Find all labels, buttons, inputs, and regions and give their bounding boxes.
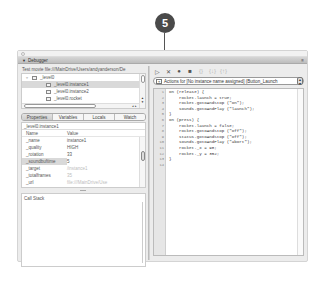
property-value[interactable]: 35 xyxy=(67,172,145,179)
display-list-tree: ▿_level0_level0.instance1_level0.instanc… xyxy=(21,73,146,109)
tree-item-label: _level0.rocket xyxy=(54,96,82,101)
property-name: _rotation xyxy=(22,151,67,158)
tree-item-label: _level0 xyxy=(40,75,54,80)
tree-item[interactable]: _level0.rocket xyxy=(22,95,145,102)
tab-properties[interactable]: Properties xyxy=(22,114,53,120)
script-code-view[interactable]: 1on (release) {2 rocket.launch = true;3 … xyxy=(153,88,304,256)
property-value[interactable]: /instance1 xyxy=(67,165,145,172)
toggle-breakpoint-icon[interactable]: ● xyxy=(176,68,182,74)
call-stack-panel: Call Stack xyxy=(21,193,146,267)
chevron-updown-icon[interactable]: ▲▼ xyxy=(297,77,303,85)
continue-icon[interactable]: ▷ xyxy=(154,68,160,75)
property-name: _url xyxy=(22,179,67,186)
property-value[interactable]: 33 xyxy=(67,151,145,158)
tree-vertical-scrollbar[interactable]: ▲▼ xyxy=(139,74,145,109)
debug-toolbar: ▷✕●■{}{↓}{↑} xyxy=(151,66,307,76)
panel-menu-icon[interactable]: ≡ xyxy=(301,58,304,63)
property-row[interactable]: _urlfile:///MainDrive/Use xyxy=(22,179,145,186)
property-row[interactable]: _totalframes35 xyxy=(22,172,145,179)
vertical-divider[interactable] xyxy=(148,66,150,260)
tab-variables[interactable]: Variables xyxy=(53,114,84,120)
property-name: _soundbuftime xyxy=(22,158,67,165)
right-pane: ▷✕●■{}{↓}{↑} ⌖ Actions for [No instance … xyxy=(151,66,307,260)
hscroll-arrows-icon[interactable]: ◂ ▸ xyxy=(132,104,137,108)
property-value[interactable]: 5 xyxy=(67,158,145,165)
code-line[interactable]: 14 xyxy=(154,163,303,169)
step-over-icon[interactable]: {} xyxy=(198,68,204,74)
actions-for-value: [No instance name assigned] (Button_Laun… xyxy=(187,79,278,84)
tree-scrollbar-thumb[interactable] xyxy=(141,75,145,83)
property-value[interactable]: instance1 xyxy=(67,137,145,144)
inspector-tabs: PropertiesVariablesLocalsWatch xyxy=(21,113,146,121)
stop-debugging-icon[interactable]: ✕ xyxy=(165,68,171,75)
movieclip-icon xyxy=(46,83,51,87)
debugger-panel: ▼ Debugger ≡ Test movie file:///MainDriv… xyxy=(17,50,308,262)
property-value[interactable]: file:///MainDrive/Use xyxy=(67,179,145,186)
collapse-triangle-icon[interactable]: ▼ xyxy=(22,58,26,63)
movieclip-icon xyxy=(46,90,51,94)
step-out-icon[interactable]: {↑} xyxy=(220,68,226,74)
properties-header: Name Value xyxy=(22,130,145,137)
property-name: _totalframes xyxy=(22,172,67,179)
actions-selector[interactable]: ⌖ Actions for [No instance name assigned… xyxy=(153,77,304,85)
tree-horizontal-scrollbar[interactable]: ◂ ▸ xyxy=(22,103,139,108)
tree-item[interactable]: _level0.instance2 xyxy=(22,88,145,95)
left-pane: Test movie file:///MainDrive/Users/andya… xyxy=(20,66,147,260)
tree-item-label: _level0.instance2 xyxy=(54,89,89,94)
movieclip-icon xyxy=(32,76,37,80)
call-stack-scrollbar[interactable] xyxy=(142,202,143,263)
tree-item[interactable]: _level0.instance1 xyxy=(22,81,145,88)
call-stack-label: Call Stack xyxy=(22,194,145,203)
property-row[interactable]: _target/instance1 xyxy=(22,165,145,172)
name-column-header[interactable]: Name xyxy=(22,130,67,136)
close-icon[interactable] xyxy=(21,52,25,56)
code-scrollbar[interactable] xyxy=(297,89,303,255)
tab-watch[interactable]: Watch xyxy=(115,114,145,120)
value-column-header[interactable]: Value xyxy=(67,130,145,136)
property-name: _quality xyxy=(22,144,67,151)
step-in-icon[interactable]: {↓} xyxy=(209,68,215,74)
remove-breakpoints-icon[interactable]: ■ xyxy=(187,68,193,74)
panel-title: Debugger xyxy=(28,58,48,63)
pin-script-icon[interactable]: ⌖ xyxy=(156,79,162,84)
property-row[interactable]: _soundbuftime5 xyxy=(22,158,145,165)
selected-instance-path: _level0.instance1 xyxy=(22,123,145,130)
property-name: _target xyxy=(22,165,67,172)
property-value[interactable]: HIGH xyxy=(67,144,145,151)
line-number[interactable]: 14 xyxy=(154,163,164,169)
movieclip-icon xyxy=(46,97,51,101)
tab-locals[interactable]: Locals xyxy=(84,114,115,120)
properties-scrollbar[interactable] xyxy=(139,137,145,187)
properties-scrollbar-thumb[interactable] xyxy=(141,151,145,161)
step-callout-badge: 5 xyxy=(155,13,175,33)
tree-hscroll-thumb[interactable] xyxy=(24,104,96,108)
panel-titlebar[interactable]: ▼ Debugger ≡ xyxy=(18,57,307,64)
property-row[interactable]: _rotation33 xyxy=(22,151,145,158)
property-name: _name xyxy=(22,137,67,144)
properties-table: _level0.instance1 Name Value _nameinstan… xyxy=(21,122,146,188)
scroll-arrows-icon[interactable]: ▲▼ xyxy=(141,96,144,104)
test-movie-file-path: Test movie file:///MainDrive/Users/andya… xyxy=(20,66,147,73)
property-row[interactable]: _qualityHIGH xyxy=(22,144,145,151)
tree-item-label: _level0.instance1 xyxy=(54,82,89,87)
tree-item[interactable]: ▿_level0 xyxy=(22,74,145,81)
actions-for-label: Actions for xyxy=(164,79,185,84)
property-row[interactable]: _nameinstance1 xyxy=(22,137,145,144)
